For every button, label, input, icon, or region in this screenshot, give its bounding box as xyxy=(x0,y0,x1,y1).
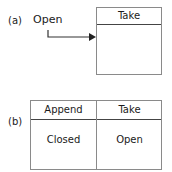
take-header: Take xyxy=(97,104,162,115)
take-box-header: Take xyxy=(97,8,161,25)
panel-b-label: (b) xyxy=(8,116,22,128)
append-header: Append xyxy=(31,104,96,115)
append-value-closed: Closed xyxy=(31,134,96,145)
state-table: Append Take Closed Open xyxy=(30,100,162,170)
take-box: Take xyxy=(96,7,162,75)
take-value-open: Open xyxy=(97,134,162,145)
take-header-label: Take xyxy=(118,10,140,21)
